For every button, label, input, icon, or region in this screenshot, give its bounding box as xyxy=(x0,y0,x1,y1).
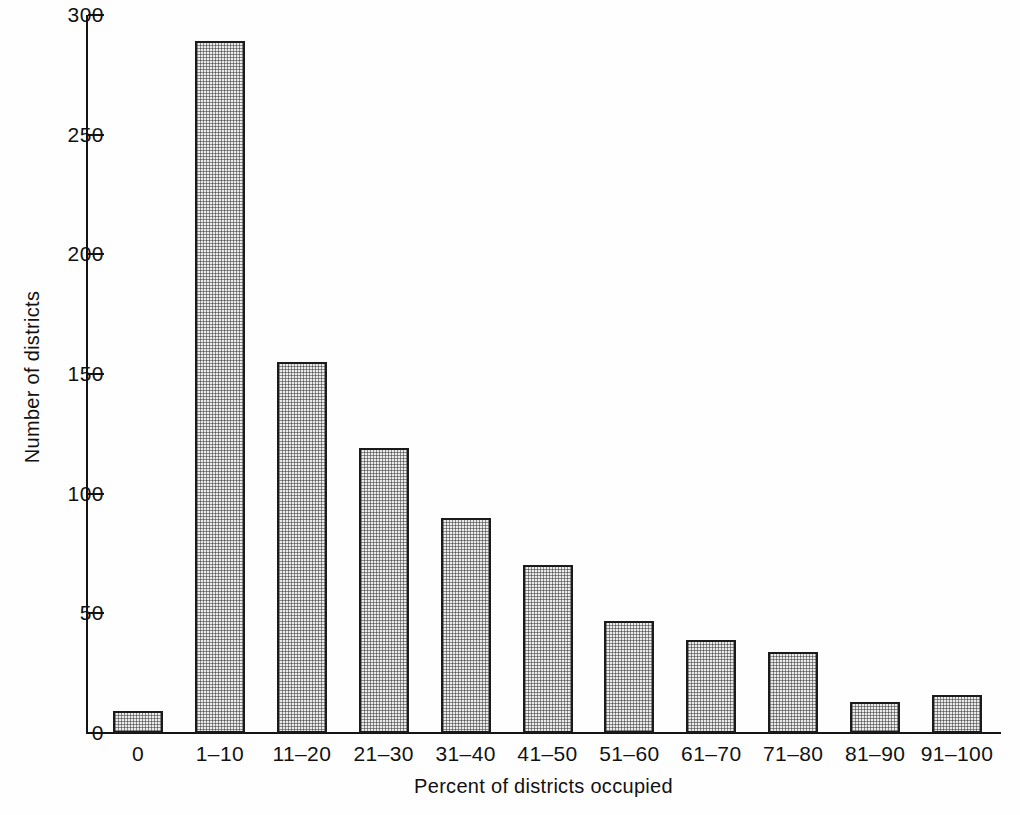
bar xyxy=(441,518,491,733)
chart-figure: 050100150200250300 01–1011–2021–3031–404… xyxy=(0,0,1020,815)
bar xyxy=(686,640,736,733)
bar xyxy=(277,362,327,733)
y-axis-tick-label: 200 xyxy=(60,243,104,264)
bar xyxy=(932,695,982,733)
bar xyxy=(768,652,818,733)
y-axis-tick-label: 150 xyxy=(60,363,104,384)
bar xyxy=(359,448,409,733)
bar xyxy=(850,702,900,733)
y-axis-tick-label: 250 xyxy=(60,124,104,145)
y-axis-title: Number of districts xyxy=(21,267,43,487)
bar xyxy=(195,41,245,733)
y-axis-tick-label: 0 xyxy=(60,722,104,743)
x-axis-title: Percent of districts occupied xyxy=(86,775,1001,797)
x-axis-tick-label: 91–100 xyxy=(897,742,1017,766)
plot-area: 050100150200250300 01–1011–2021–3031–404… xyxy=(0,0,1020,815)
bar xyxy=(604,621,654,733)
y-axis-tick-label: 50 xyxy=(60,602,104,623)
bar xyxy=(113,711,163,733)
y-axis-tick-label: 100 xyxy=(60,483,104,504)
bar xyxy=(523,565,573,733)
y-axis-tick-label: 300 xyxy=(60,4,104,25)
